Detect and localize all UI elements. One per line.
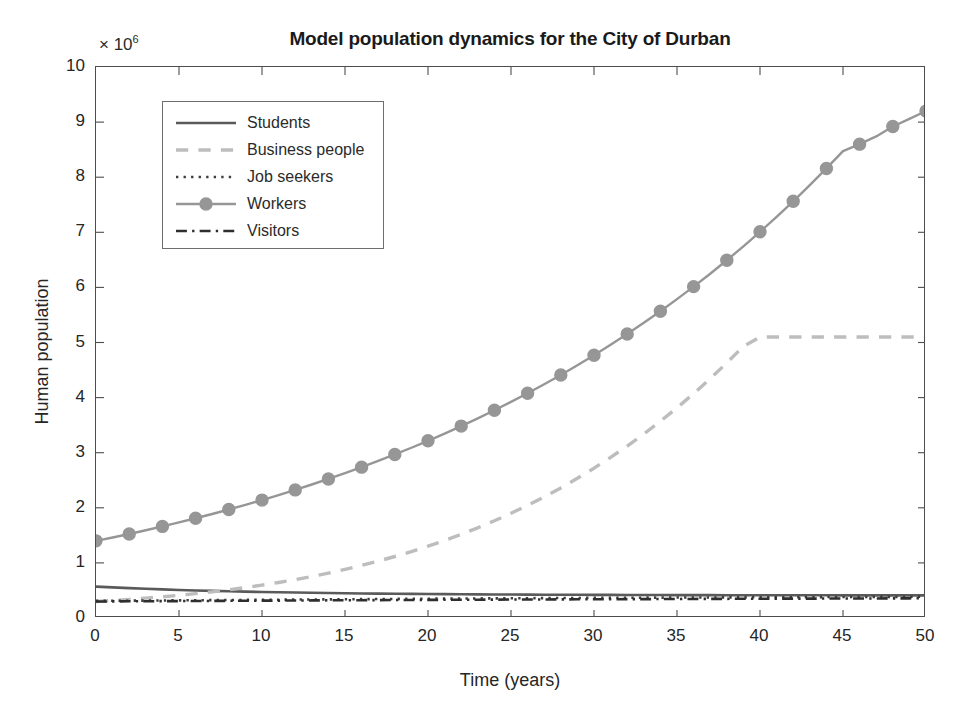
y-tick-label: 7 <box>25 222 85 239</box>
legend-label: Business people <box>247 141 364 159</box>
legend-entry-business-people[interactable]: Business people <box>163 136 383 163</box>
x-tick-label: 20 <box>397 627 457 644</box>
y-tick-label: 8 <box>25 167 85 184</box>
legend-label: Job seekers <box>247 168 333 186</box>
legend-entry-workers[interactable]: Workers <box>163 190 383 217</box>
series-marker <box>588 349 600 361</box>
series-marker <box>322 473 334 485</box>
series-marker <box>787 195 799 207</box>
legend-entry-job-seekers[interactable]: Job seekers <box>163 163 383 190</box>
x-axis-label: Time (years) <box>95 670 925 691</box>
series-visitors <box>96 598 925 601</box>
x-tick-label: 15 <box>314 627 374 644</box>
legend-entry-visitors[interactable]: Visitors <box>163 217 383 244</box>
series-line <box>96 337 925 601</box>
legend-box[interactable]: StudentsBusiness peopleJob seekersWorker… <box>162 101 384 249</box>
y-tick-label: 10 <box>25 57 85 74</box>
legend-line-sample <box>175 222 237 240</box>
series-marker <box>455 420 467 432</box>
y-axis-exponent-label: × 106 <box>99 33 139 55</box>
series-marker <box>422 435 434 447</box>
legend-line-sample <box>175 168 237 186</box>
series-marker <box>654 305 666 317</box>
series-marker <box>854 138 866 150</box>
x-tick-label: 10 <box>231 627 291 644</box>
y-tick-label: 6 <box>25 277 85 294</box>
series-marker <box>754 226 766 238</box>
x-tick-label: 0 <box>65 627 125 644</box>
series-marker <box>488 404 500 416</box>
x-tick-label: 50 <box>895 627 955 644</box>
legend-line-sample <box>175 195 237 213</box>
legend-label: Visitors <box>247 222 299 240</box>
series-marker <box>256 494 268 506</box>
legend-line-sample <box>175 114 237 132</box>
x-tick-label: 5 <box>148 627 208 644</box>
series-marker <box>887 121 899 133</box>
series-marker <box>721 254 733 266</box>
series-marker <box>96 535 102 547</box>
series-marker <box>223 504 235 516</box>
x-tick-label: 45 <box>812 627 872 644</box>
series-line <box>96 598 925 601</box>
series-marker <box>289 484 301 496</box>
x-tick-label: 40 <box>729 627 789 644</box>
series-marker <box>555 369 567 381</box>
y-tick-label: 4 <box>25 388 85 405</box>
series-marker <box>190 512 202 524</box>
series-marker <box>389 448 401 460</box>
y-tick-label: 5 <box>25 333 85 350</box>
y-tick-label: 2 <box>25 498 85 515</box>
series-students <box>96 587 925 596</box>
figure-canvas: Model population dynamics for the City o… <box>0 0 966 720</box>
series-marker <box>522 387 534 399</box>
y-axis-exponent-power: 6 <box>133 33 139 45</box>
series-marker <box>621 328 633 340</box>
x-tick-label: 35 <box>646 627 706 644</box>
series-business-people <box>96 337 925 601</box>
y-tick-label: 9 <box>25 112 85 129</box>
series-marker <box>920 105 925 117</box>
series-marker <box>820 162 832 174</box>
legend-line-sample <box>175 141 237 159</box>
x-tick-label: 25 <box>480 627 540 644</box>
series-marker <box>356 461 368 473</box>
series-marker <box>123 528 135 540</box>
x-tick-label: 30 <box>563 627 623 644</box>
series-marker <box>688 281 700 293</box>
legend-label: Students <box>247 114 310 132</box>
y-tick-label: 0 <box>25 608 85 625</box>
chart-title: Model population dynamics for the City o… <box>95 28 925 50</box>
legend-label: Workers <box>247 195 306 213</box>
series-marker <box>156 520 168 532</box>
legend-entry-students[interactable]: Students <box>163 109 383 136</box>
series-line <box>96 587 925 596</box>
y-axis-exponent-prefix: × 10 <box>99 35 133 54</box>
y-tick-label: 1 <box>25 553 85 570</box>
y-tick-label: 3 <box>25 443 85 460</box>
